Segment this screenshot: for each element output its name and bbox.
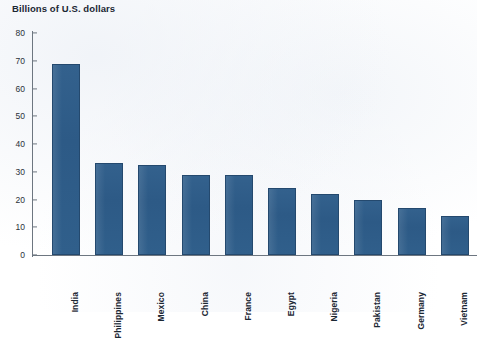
bar-group xyxy=(95,33,123,255)
bar-group xyxy=(354,33,382,255)
bar-group xyxy=(268,33,296,255)
bar[interactable] xyxy=(268,188,296,255)
bar[interactable] xyxy=(354,200,382,256)
x-axis-label: Germany xyxy=(416,292,426,330)
bar-group xyxy=(398,33,426,255)
x-axis-label: China xyxy=(200,292,210,316)
bar[interactable] xyxy=(95,163,123,255)
bar[interactable] xyxy=(138,165,166,255)
y-tick-label: 30 xyxy=(16,167,25,177)
x-axis-line xyxy=(32,255,477,256)
x-axis-label: France xyxy=(243,292,253,320)
y-tick-label: 50 xyxy=(16,111,25,121)
y-tick-label: 20 xyxy=(16,195,25,205)
x-axis-label: Pakistan xyxy=(372,292,382,328)
x-axis-label: India xyxy=(70,292,80,312)
bar[interactable] xyxy=(311,194,339,255)
bar-group xyxy=(311,33,339,255)
y-tick-label: 0 xyxy=(20,250,25,260)
bar[interactable] xyxy=(52,64,80,255)
chart-title: Billions of U.S. dollars xyxy=(12,3,115,14)
y-tick-label: 80 xyxy=(16,28,25,38)
bar-group xyxy=(182,33,210,255)
plot-area: 01020304050607080 IndiaPhilippinesMexico… xyxy=(32,33,477,255)
bar-group xyxy=(441,33,469,255)
y-tick-label: 40 xyxy=(16,139,25,149)
x-axis-label: Egypt xyxy=(286,292,296,316)
bar-group xyxy=(225,33,253,255)
bar[interactable] xyxy=(398,208,426,255)
y-tick-label: 10 xyxy=(16,222,25,232)
y-tick-label: 60 xyxy=(16,84,25,94)
bar[interactable] xyxy=(441,216,469,255)
bar-series: IndiaPhilippinesMexicoChinaFranceEgyptNi… xyxy=(32,33,477,255)
bar-group xyxy=(52,33,80,255)
x-axis-label: Vietnam xyxy=(459,292,469,326)
bar-group xyxy=(138,33,166,255)
x-axis-label: Mexico xyxy=(156,292,166,321)
x-axis-label: Nigeria xyxy=(329,292,339,322)
y-tick-label: 70 xyxy=(16,56,25,66)
x-axis-label: Philippines xyxy=(113,292,123,338)
bar[interactable] xyxy=(182,175,210,255)
bar[interactable] xyxy=(225,175,253,255)
